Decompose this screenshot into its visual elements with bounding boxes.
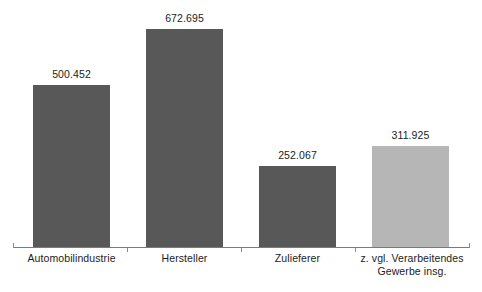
category-label-automobilindustrie: Automobilindustrie [14, 252, 129, 265]
bar-chart: 500.452 672.695 252.067 311.925 Automobi… [0, 0, 482, 292]
bar-zulieferer[interactable] [259, 166, 336, 248]
bar-automobilindustrie[interactable] [33, 85, 110, 248]
bar-group-hersteller: 672.695 [146, 29, 223, 248]
category-label-line: Hersteller [128, 252, 241, 265]
category-axis-labels: Automobilindustrie Hersteller Zulieferer… [0, 252, 482, 292]
bar-verarbeitendes-gewerbe[interactable] [372, 146, 449, 248]
category-label-line: Automobilindustrie [14, 252, 129, 265]
bar-value-label: 500.452 [52, 68, 91, 80]
bar-group-verarbeitendes-gewerbe: 311.925 [372, 146, 449, 248]
category-label-line: Gewerbe insg. [354, 265, 470, 278]
bar-hersteller[interactable] [146, 29, 223, 248]
axis-cap-right [469, 243, 470, 248]
category-label-line: z. vgl. Verarbeitendes [354, 252, 470, 265]
category-label-line: Zulieferer [241, 252, 354, 265]
axis-cap-left [13, 243, 14, 248]
bar-group-automobilindustrie: 500.452 [33, 85, 110, 248]
bar-value-label: 311.925 [392, 129, 430, 141]
category-label-verarbeitendes-gewerbe: z. vgl. Verarbeitendes Gewerbe insg. [354, 252, 470, 278]
bar-group-zulieferer: 252.067 [259, 166, 336, 248]
bar-value-label: 252.067 [278, 149, 317, 161]
plot-area: 500.452 672.695 252.067 311.925 [0, 0, 482, 248]
category-label-zulieferer: Zulieferer [241, 252, 354, 265]
category-label-hersteller: Hersteller [128, 252, 241, 265]
bar-value-label: 672.695 [165, 12, 204, 24]
